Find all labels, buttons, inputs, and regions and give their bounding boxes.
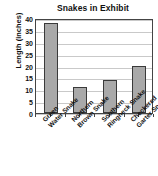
bar — [44, 23, 58, 113]
y-tick-label: 5 — [29, 99, 33, 106]
y-axis-tick-labels: 0510152025303540 — [14, 19, 33, 114]
y-tick-label: 35 — [25, 27, 33, 34]
y-tick-label: 20 — [25, 63, 33, 70]
y-tick-label: 40 — [25, 16, 33, 23]
chart-title: Snakes in Exhibit — [30, 3, 156, 13]
y-tick-label: 10 — [25, 87, 33, 94]
y-tick-label: 25 — [25, 51, 33, 58]
x-tick-mark — [35, 114, 36, 117]
bar-chart-figure: Snakes in Exhibit Length (inches) 051015… — [0, 0, 158, 176]
y-tick-label: 0 — [29, 111, 33, 118]
y-tick-label: 30 — [25, 39, 33, 46]
y-tick-label: 15 — [25, 75, 33, 82]
x-axis-tick-labels: GreenWater SnakeNorthernBrown SnakeSouth… — [35, 118, 158, 176]
